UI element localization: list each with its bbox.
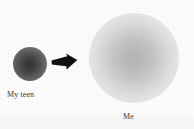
arrow-right-icon xyxy=(51,53,78,70)
label-my-teen: My teen xyxy=(7,90,34,99)
label-me: Me xyxy=(123,112,134,121)
sphere-me xyxy=(89,13,179,103)
scan-edge-shadow xyxy=(0,116,194,129)
scanned-figure: My teen Me xyxy=(0,0,194,129)
sphere-my-teen xyxy=(13,47,47,81)
